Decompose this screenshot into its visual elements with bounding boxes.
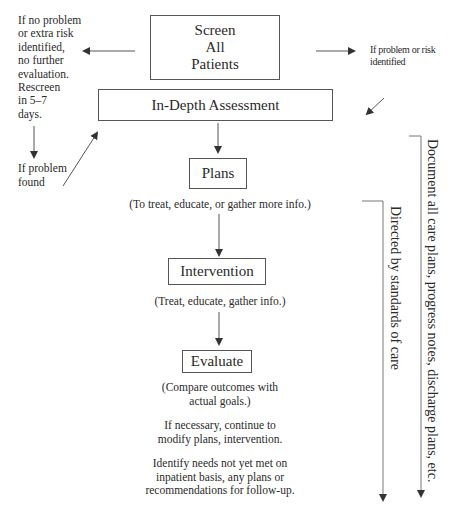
intervention-label: Intervention xyxy=(180,263,253,280)
intervention-note: (Treat, educate, gather info.) xyxy=(130,295,310,309)
screen-line-3: Patients xyxy=(191,56,239,73)
screen-line-1: Screen xyxy=(195,22,236,39)
evaluate-note-modify-line-1: If necessary, continue to xyxy=(130,419,310,433)
evaluate-note-followup-line-3: recommendations for follow-up. xyxy=(130,484,310,498)
evaluate-note-compare-line-1: (Compare outcomes with xyxy=(130,381,310,395)
evaluate-label: Evaluate xyxy=(191,353,243,370)
evaluate-note-compare-line-2: actual goals.) xyxy=(130,395,310,409)
evaluate-note-followup: Identify needs not yet met on inpatient … xyxy=(130,457,310,498)
no-problem-line-8: days. xyxy=(18,108,98,121)
evaluate-note-compare: (Compare outcomes with actual goals.) xyxy=(130,381,310,408)
no-problem-line-4: no further xyxy=(18,54,98,67)
problem-or-risk-line-1: If problem or risk xyxy=(370,44,458,56)
evaluate-note-modify-line-2: modify plans, intervention. xyxy=(130,433,310,447)
documentation-label: Document all care plans, progress notes,… xyxy=(424,139,440,482)
evaluate-note-followup-line-1: Identify needs not yet met on xyxy=(130,457,310,471)
standards-of-care-label: Directed by standards of care xyxy=(387,206,403,370)
problem-found-note: If problem found xyxy=(18,162,88,189)
screen-all-patients-box: Screen All Patients xyxy=(150,15,280,80)
no-problem-line-7: in 5–7 xyxy=(18,94,98,107)
in-depth-assessment-box: In-Depth Assessment xyxy=(98,89,333,121)
no-problem-line-2: or extra risk xyxy=(18,27,98,40)
problem-or-risk-note: If problem or risk identified xyxy=(370,44,458,68)
problem-found-line-2: found xyxy=(18,176,88,190)
no-problem-line-5: evaluation. xyxy=(18,68,98,81)
plans-note: (To treat, educate, or gather more info.… xyxy=(110,198,330,212)
evaluate-note-modify: If necessary, continue to modify plans, … xyxy=(130,419,310,446)
evaluate-box: Evaluate xyxy=(182,350,252,373)
no-problem-line-3: identified, xyxy=(18,41,98,54)
screen-line-2: All xyxy=(205,39,224,56)
problem-or-risk-line-2: identified xyxy=(370,56,458,68)
problem-found-line-1: If problem xyxy=(18,162,88,176)
no-problem-line-1: If no problem xyxy=(18,14,98,27)
no-problem-line-6: Rescreen xyxy=(18,81,98,94)
no-problem-note: If no problem or extra risk identified, … xyxy=(18,14,98,121)
plans-box: Plans xyxy=(189,158,247,189)
plans-label: Plans xyxy=(202,165,235,182)
evaluate-note-followup-line-2: inpatient basis, any plans or xyxy=(130,471,310,485)
assessment-label: In-Depth Assessment xyxy=(152,97,280,114)
intervention-box: Intervention xyxy=(168,258,266,285)
